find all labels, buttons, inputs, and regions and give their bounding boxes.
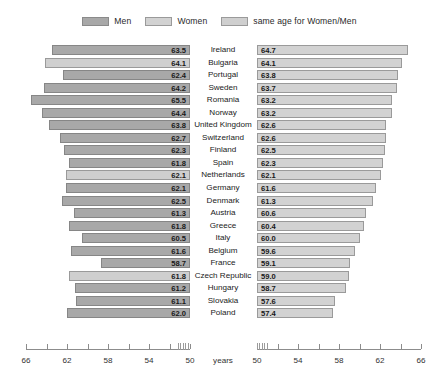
bar-value-men: 62.0 bbox=[171, 309, 186, 318]
axis-tick-label: 58 bbox=[334, 356, 343, 365]
legend-label-men: Men bbox=[114, 16, 131, 26]
bar-value-men: 62.7 bbox=[171, 134, 186, 143]
bar-men: 62.1 bbox=[66, 170, 190, 180]
chart-row: 58.7France59.1 bbox=[0, 257, 439, 270]
legend-label-same-age: same age for Women/Men bbox=[253, 16, 356, 26]
bar-men: 62.5 bbox=[62, 196, 190, 206]
bar-women: 63.2 bbox=[257, 95, 392, 105]
axis-tick bbox=[319, 344, 320, 349]
bar-women: 64.7 bbox=[257, 45, 408, 55]
bar-value-men: 61.1 bbox=[171, 297, 186, 306]
bar-men: 61.8 bbox=[69, 221, 190, 231]
bar-value-women: 58.7 bbox=[261, 284, 276, 293]
bar-women: 61.6 bbox=[257, 183, 376, 193]
bar-men: 61.1 bbox=[76, 296, 190, 306]
axis-tick-label: 66 bbox=[21, 356, 30, 365]
bar-women: 60.6 bbox=[257, 208, 366, 218]
country-label: Poland bbox=[190, 307, 256, 319]
bar-men: 61.3 bbox=[74, 208, 190, 218]
chart-row: 61.3Austria60.6 bbox=[0, 207, 439, 220]
legend-label-women: Women bbox=[177, 16, 207, 26]
axis-break-icon bbox=[257, 343, 269, 350]
bar-men: 64.2 bbox=[44, 83, 190, 93]
bar-value-women: 60.0 bbox=[261, 234, 276, 243]
axis-tick bbox=[67, 344, 68, 349]
chart-row: 61.8Greece60.4 bbox=[0, 220, 439, 233]
chart-row: 62.5Denmark61.3 bbox=[0, 195, 439, 208]
axis-tick bbox=[380, 344, 381, 349]
chart-row: 61.8Spain62.3 bbox=[0, 157, 439, 170]
chart-row: 64.4Norway63.2 bbox=[0, 107, 439, 120]
bar-men: 62.1 bbox=[66, 183, 190, 193]
bar-value-men: 65.5 bbox=[171, 96, 186, 105]
bar-value-women: 62.5 bbox=[261, 146, 276, 155]
bar-value-men: 63.5 bbox=[171, 46, 186, 55]
bar-value-men: 62.1 bbox=[171, 171, 186, 180]
country-label: Slovakia bbox=[190, 295, 256, 307]
bar-value-men: 62.1 bbox=[171, 184, 186, 193]
bar-women: 59.0 bbox=[257, 271, 349, 281]
axis-tick bbox=[298, 344, 299, 349]
legend-swatch-men-icon bbox=[82, 17, 109, 26]
axis-tick bbox=[170, 344, 171, 349]
country-label: Italy bbox=[190, 232, 256, 244]
country-label: Netherlands bbox=[190, 169, 256, 181]
bar-value-men: 58.7 bbox=[171, 259, 186, 268]
bar-value-men: 61.8 bbox=[171, 272, 186, 281]
bar-women: 63.7 bbox=[257, 83, 397, 93]
bar-women: 62.5 bbox=[257, 145, 385, 155]
country-label: Switzerland bbox=[190, 132, 256, 144]
chart-legend: Men Women same age for Women/Men bbox=[0, 16, 439, 26]
chart-row: 64.1Bulgaria64.1 bbox=[0, 57, 439, 70]
chart-row: 62.3Finland62.5 bbox=[0, 144, 439, 157]
chart-row: 61.1Slovakia57.6 bbox=[0, 295, 439, 308]
chart-row: 61.2Hungary58.7 bbox=[0, 282, 439, 295]
bar-value-women: 61.3 bbox=[261, 197, 276, 206]
country-label: Denmark bbox=[190, 195, 256, 207]
axis-line-right bbox=[257, 349, 421, 350]
bar-value-women: 59.0 bbox=[261, 272, 276, 281]
chart-row: 63.5Ireland64.7 bbox=[0, 44, 439, 57]
bar-value-women: 62.1 bbox=[261, 171, 276, 180]
bar-value-men: 60.5 bbox=[171, 234, 186, 243]
bar-value-women: 63.8 bbox=[261, 71, 276, 80]
country-label: Romania bbox=[190, 94, 256, 106]
bar-women: 61.3 bbox=[257, 196, 373, 206]
axis-tick-label: 62 bbox=[375, 356, 384, 365]
axis-tick-label: 62 bbox=[62, 356, 71, 365]
bar-value-women: 64.7 bbox=[261, 46, 276, 55]
bar-men: 63.8 bbox=[49, 120, 190, 130]
bar-value-women: 59.6 bbox=[261, 247, 276, 256]
legend-swatch-women-icon bbox=[145, 17, 172, 26]
legend-item-women: Women bbox=[145, 16, 207, 26]
axis-tick-label: 58 bbox=[103, 356, 112, 365]
chart-row: 64.2Sweden63.7 bbox=[0, 82, 439, 95]
bar-value-men: 61.8 bbox=[171, 159, 186, 168]
bar-men: 62.0 bbox=[67, 308, 190, 318]
bar-value-women: 57.6 bbox=[261, 297, 276, 306]
axis-unit-label: years bbox=[190, 356, 256, 365]
bar-men: 61.6 bbox=[71, 246, 190, 256]
country-label: United Kingdom bbox=[190, 119, 256, 131]
country-label: Portugal bbox=[190, 69, 256, 81]
bar-women: 60.4 bbox=[257, 221, 364, 231]
axis-tick bbox=[190, 344, 191, 349]
country-label: Bulgaria bbox=[190, 57, 256, 69]
axis-tick-label: 66 bbox=[416, 356, 425, 365]
bar-value-women: 61.6 bbox=[261, 184, 276, 193]
axis-tick bbox=[278, 344, 279, 349]
bar-value-women: 62.3 bbox=[261, 159, 276, 168]
chart-row: 63.8United Kingdom62.6 bbox=[0, 119, 439, 132]
retirement-age-butterfly-chart: Men Women same age for Women/Men 63.5Ire… bbox=[0, 0, 439, 381]
country-label: Sweden bbox=[190, 82, 256, 94]
bar-men: 62.4 bbox=[63, 70, 190, 80]
chart-row: 60.5Italy60.0 bbox=[0, 232, 439, 245]
bar-value-women: 63.7 bbox=[261, 84, 276, 93]
bar-value-men: 62.4 bbox=[171, 71, 186, 80]
legend-item-men: Men bbox=[82, 16, 131, 26]
bar-value-men: 64.4 bbox=[171, 109, 186, 118]
country-label: Hungary bbox=[190, 282, 256, 294]
bar-women: 60.0 bbox=[257, 233, 360, 243]
axis-tick bbox=[421, 344, 422, 349]
axis-tick bbox=[88, 344, 89, 349]
